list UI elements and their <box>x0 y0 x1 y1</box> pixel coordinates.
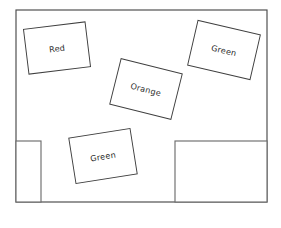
bottom-right-alcove <box>175 141 267 202</box>
box-green-bottom[interactable]: Green <box>69 128 137 183</box>
sketch-canvas: Red Green Orange Green <box>0 0 281 228</box>
box-red[interactable]: Red <box>23 22 90 74</box>
bottom-left-alcove <box>16 141 41 202</box>
box-red-label: Red <box>48 43 65 55</box>
floor-plan-diagram: Red Green Orange Green <box>0 0 281 228</box>
